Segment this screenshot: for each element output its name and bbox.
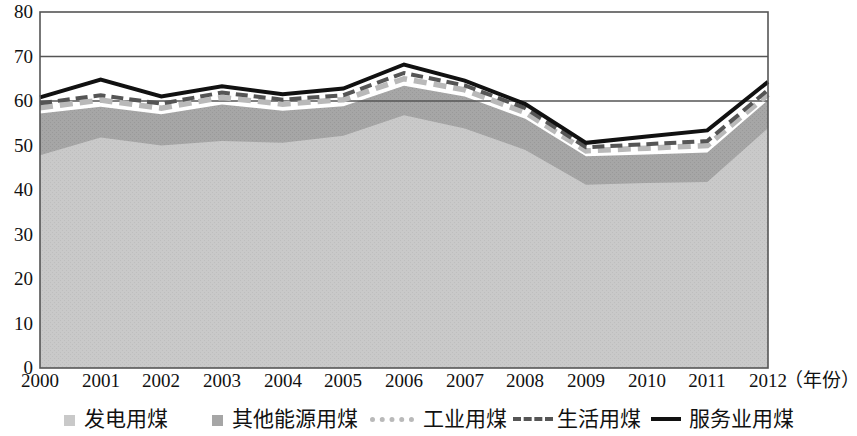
chart-figure: 80 70 60 50 40 30 20 10 0 2000 2001 2002… (0, 0, 857, 436)
legend-label: 其他能源用煤 (232, 407, 358, 431)
x-tick-label: 2000 (12, 370, 68, 392)
legend-item-residential-coal: 生活用煤 (509, 407, 641, 431)
chart-legend: 发电用煤 其他能源用煤 工业用煤 生活用煤 服务业用煤 (0, 402, 857, 436)
legend-dotted-line-icon (370, 417, 414, 422)
legend-label: 服务业用煤 (689, 407, 794, 431)
x-tick-label: 2010 (619, 370, 675, 392)
legend-item-industrial-coal: 工业用煤 (370, 407, 507, 431)
legend-solid-line-icon (651, 417, 681, 421)
legend-item-other-energy-coal: 其他能源用煤 (212, 407, 358, 431)
legend-square-icon (212, 415, 223, 426)
x-tick-label: 2003 (194, 370, 250, 392)
plot-area (0, 0, 857, 400)
x-tick-label: 2011 (679, 370, 735, 392)
x-tick-label: 2004 (255, 370, 311, 392)
x-tick-label: 2002 (133, 370, 189, 392)
x-tick-label: 2001 (73, 370, 129, 392)
legend-square-icon (64, 415, 75, 426)
x-axis: 2000 2001 2002 2003 2004 2005 2006 2007 … (0, 370, 857, 396)
legend-label: 发电用煤 (84, 407, 168, 431)
x-tick-label: 2008 (497, 370, 553, 392)
legend-item-service-coal: 服务业用煤 (643, 407, 794, 431)
x-tick-label: 2007 (437, 370, 493, 392)
legend-label: 工业用煤 (423, 407, 507, 431)
legend-label: 生活用煤 (557, 407, 641, 431)
legend-dashed-line-icon (513, 417, 553, 421)
x-tick-label: 2006 (376, 370, 432, 392)
legend-item-power-coal: 发电用煤 (64, 407, 168, 431)
x-tick-label: 2009 (558, 370, 614, 392)
x-axis-unit-label: （年份） (784, 370, 857, 392)
x-tick-label: 2005 (315, 370, 371, 392)
